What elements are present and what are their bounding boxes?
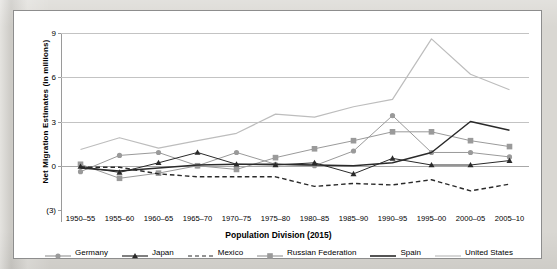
legend-item-japan[interactable]: Japan [121,247,174,257]
data-point-circle [117,153,122,158]
legend-swatch-square-icon [256,247,284,257]
legend-label: Germany [75,248,108,257]
legend-item-united-states[interactable]: United States [434,247,513,257]
x-tick-labels: 1950–551955–601960–651965–701970–751975–… [61,214,529,228]
x-tick-label: 1960–65 [144,214,174,223]
data-point-triangle [195,149,201,154]
y-tick-label: 6 [52,73,56,82]
series-layer [61,33,529,210]
chart-card: Net Migration Estimates (in millions) 96… [13,10,542,259]
data-point-square [429,129,435,135]
data-point-square [234,167,240,173]
data-point-square [312,146,318,152]
y-tick-label: 9 [52,29,56,38]
chart-screenshot: Net Migration Estimates (in millions) 96… [0,0,557,269]
x-tick-label: 1985–90 [339,214,369,223]
series-line [81,152,510,173]
x-tick-label: 1950–55 [66,214,96,223]
x-tick-label: 2005–10 [495,214,525,223]
series-united-states [81,39,510,150]
data-point-square [273,155,279,161]
legend-label: Japan [152,248,174,257]
series-mexico [81,167,510,191]
data-point-circle [390,113,395,118]
legend-swatch-line-icon [187,247,215,257]
data-point-square [390,129,396,135]
series-line [81,167,510,191]
data-point-square [267,253,273,259]
data-point-circle [55,253,60,258]
x-tick-label: 2000–05 [456,214,486,223]
x-tick-label: 1980–85 [300,214,330,223]
legend-swatch-line-icon [434,247,462,257]
chart-legend: GermanyJapanMexicoRussian FederationSpai… [14,247,543,257]
series-line [81,116,510,172]
legend-label: Mexico [218,248,243,257]
x-tick-label: 1995–00 [417,214,447,223]
legend-item-russian-federation[interactable]: Russian Federation [256,247,356,257]
legend-label: United States [465,248,513,257]
data-point-square [351,138,357,144]
y-tick-label: 3 [52,117,56,126]
data-point-square [507,144,513,150]
series-russian-federation [78,129,513,181]
x-tick-label: 1965–70 [183,214,213,223]
x-axis-title: Population Division (2015) [14,230,543,240]
y-axis-title: Net Migration Estimates (in millions) [41,37,50,187]
plot-area: 9630(3) [61,33,529,210]
x-tick-label: 1955–60 [105,214,135,223]
legend-label: Russian Federation [287,248,356,257]
legend-swatch-circle-icon [44,247,72,257]
data-point-circle [78,169,83,174]
series-line [81,132,510,178]
legend-swatch-triangle-icon [121,247,149,257]
legend-item-spain[interactable]: Spain [369,247,420,257]
x-tick-label: 1975–80 [261,214,291,223]
data-point-circle [468,150,473,155]
legend-label: Spain [400,248,420,257]
series-line [81,39,510,150]
data-point-triangle [390,155,396,160]
data-point-circle [351,148,356,153]
data-point-circle [234,150,239,155]
data-point-square [468,138,474,144]
data-point-square [117,175,123,181]
y-tick-label: 0 [52,161,56,170]
legend-item-mexico[interactable]: Mexico [187,247,243,257]
x-tick-label: 1970–75 [222,214,252,223]
legend-swatch-line-icon [369,247,397,257]
y-tick-label: (3) [46,206,56,215]
x-tick-label: 1990–95 [378,214,408,223]
data-point-circle [156,150,161,155]
legend-item-germany[interactable]: Germany [44,247,108,257]
